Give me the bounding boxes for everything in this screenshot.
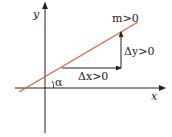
delta-y-label: Δy>0: [124, 45, 154, 58]
slope-label: m>0: [112, 12, 139, 25]
x-axis-label: x: [151, 90, 158, 103]
y-axis-label: y: [32, 8, 40, 21]
delta-x-label: Δx>0: [78, 70, 108, 83]
angle-arc: [52, 81, 54, 88]
slope-diagram: y x m>0 Δy>0 Δx>0 α: [0, 0, 172, 137]
angle-label: α: [55, 76, 63, 89]
